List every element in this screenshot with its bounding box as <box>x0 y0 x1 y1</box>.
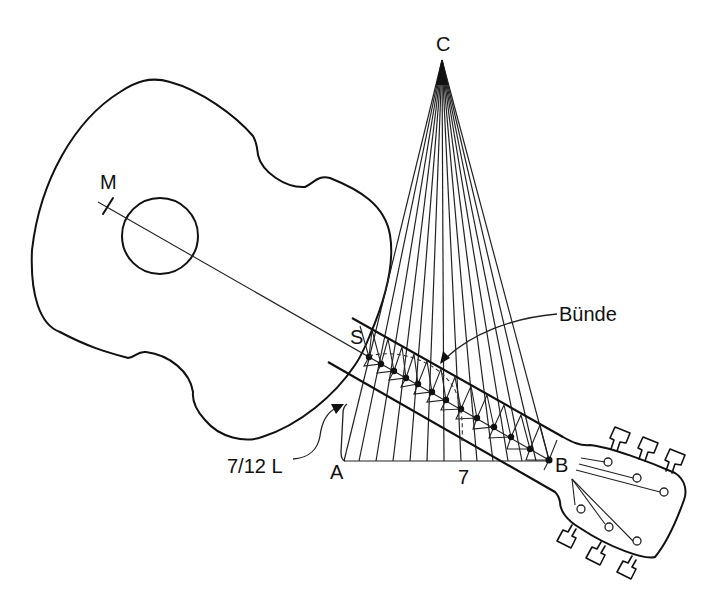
tuning-pegs-top <box>610 427 685 473</box>
label-m: M <box>100 172 117 192</box>
diagram-canvas: C M S A B 7 7/12 L Bünde <box>0 0 721 611</box>
frets-arrow <box>446 314 557 358</box>
soundhole <box>122 198 198 274</box>
length-arrow <box>293 408 336 459</box>
neck-bottom-edge <box>328 362 555 492</box>
guitar-body-outline <box>32 80 392 440</box>
tuning-pegs-bottom <box>557 525 636 579</box>
label-b: B <box>555 455 568 475</box>
tuner-posts <box>577 458 668 545</box>
label-buende: Bünde <box>559 304 617 324</box>
label-s: S <box>350 327 363 347</box>
label-c: C <box>436 34 450 54</box>
label-seven-twelfths-l: 7/12 L <box>227 456 283 476</box>
label-a: A <box>330 462 343 482</box>
headstock-strings <box>572 458 660 541</box>
label-seven: 7 <box>458 467 469 487</box>
